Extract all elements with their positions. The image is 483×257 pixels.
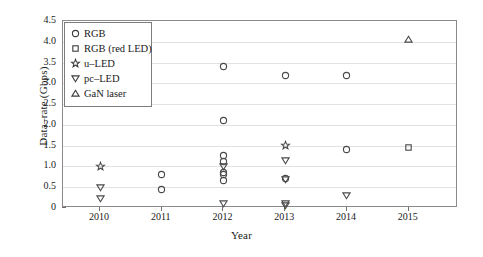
data-point-circle: [219, 62, 228, 71]
y-tick-label: 1.5: [16, 140, 56, 150]
x-axis-title: Year: [0, 229, 483, 241]
data-point-circle: [157, 185, 166, 194]
data-point-circle: [342, 145, 351, 154]
gridline: [63, 166, 456, 167]
gridline: [63, 187, 456, 188]
data-point-star: [281, 141, 290, 150]
square-icon: [69, 43, 82, 54]
legend-item-label: GaN laser: [82, 88, 126, 99]
y-tick-label: 1.0: [16, 160, 56, 170]
gridline: [63, 146, 456, 147]
data-point-circle: [157, 170, 166, 179]
data-point-circle: [219, 116, 228, 125]
x-tick-label: 2010: [69, 211, 129, 222]
y-tick-label: 0: [16, 202, 56, 212]
star-icon: [69, 58, 82, 69]
data-point-triangle-down: [281, 156, 290, 165]
chart-legend: RGBRGB (red LED)u–LEDpc–LEDGaN laser: [64, 22, 152, 107]
x-tick-label: 2015: [378, 211, 438, 222]
x-tick-mark: [161, 207, 162, 211]
x-tick-label: 2014: [316, 211, 376, 222]
y-tick-mark: [62, 207, 66, 208]
y-tick-label: 2.0: [16, 119, 56, 129]
legend-item-label: pc–LED: [82, 73, 120, 84]
data-point-triangle-down: [96, 183, 105, 192]
y-tick-label: 0.5: [16, 181, 56, 191]
legend-item-label: u–LED: [82, 58, 115, 69]
gridline: [63, 125, 456, 126]
legend-item-square: RGB (red LED): [69, 41, 147, 56]
x-tick-mark: [99, 207, 100, 211]
data-point-circle: [281, 71, 290, 80]
data-point-square: [404, 143, 413, 152]
y-tick-label: 3.5: [16, 57, 56, 67]
y-tick-label: 4.5: [16, 15, 56, 25]
data-point-star: [96, 162, 105, 171]
data-point-triangle-down: [281, 175, 290, 184]
legend-item-circle: RGB: [69, 26, 147, 41]
x-tick-label: 2013: [254, 211, 314, 222]
scatter-chart-figure: Data–rate (Gbps) Year 00.51.01.52.02.53.…: [0, 0, 483, 257]
x-tick-label: 2011: [131, 211, 191, 222]
data-point-circle: [342, 71, 351, 80]
legend-item-triangle-down: pc–LED: [69, 71, 147, 86]
legend-item-label: RGB: [82, 28, 106, 39]
data-point-triangle-down: [219, 199, 228, 208]
data-point-triangle-down: [342, 191, 351, 200]
y-tick-label: 4.0: [16, 36, 56, 46]
circle-icon: [69, 28, 82, 39]
x-tick-label: 2012: [192, 211, 252, 222]
x-tick-mark: [408, 207, 409, 211]
legend-item-star: u–LED: [69, 56, 147, 71]
x-tick-mark: [346, 207, 347, 211]
data-point-triangle-down: [96, 194, 105, 203]
triangle-up-icon: [69, 88, 82, 99]
legend-item-triangle-up: GaN laser: [69, 86, 147, 101]
data-point-triangle-down: [281, 201, 290, 210]
y-tick-label: 2.5: [16, 98, 56, 108]
data-point-triangle-down: [219, 162, 228, 171]
y-tick-label: 3.0: [16, 77, 56, 87]
legend-item-label: RGB (red LED): [82, 43, 152, 54]
data-point-triangle-up: [404, 35, 413, 44]
data-point-circle: [219, 176, 228, 185]
triangle-down-icon: [69, 73, 82, 84]
